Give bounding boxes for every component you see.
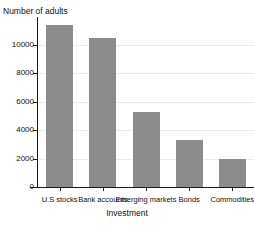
x-axis-tick — [189, 187, 190, 191]
x-axis-tick-label: Commodities — [211, 195, 254, 204]
x-axis-tick-label: Emerging markets — [116, 195, 177, 204]
x-axis-tick — [60, 187, 61, 191]
x-axis-tick — [146, 187, 147, 191]
y-axis-tick-label: 6000 — [0, 97, 34, 106]
y-axis-tick-label: 0 — [0, 182, 34, 191]
x-axis-tick-label: Bonds — [179, 195, 200, 204]
y-axis-tick-label: 4000 — [0, 125, 34, 134]
y-axis-tick-label: 10000 — [0, 40, 34, 49]
bar-chart: Investment accounts Number of adults 020… — [0, 0, 254, 225]
x-axis-tick — [103, 187, 104, 191]
y-axis-labels: 0200040006000800010000 — [0, 0, 254, 225]
x-axis-tick-label: U.S stocks — [42, 195, 78, 204]
x-axis-title: Investment — [0, 208, 254, 218]
x-axis-tick — [232, 187, 233, 191]
y-axis-tick-label: 2000 — [0, 154, 34, 163]
y-axis-tick-label: 8000 — [0, 68, 34, 77]
